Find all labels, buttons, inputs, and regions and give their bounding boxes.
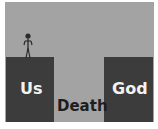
death-label: Death <box>57 98 108 114</box>
god-label: God <box>112 81 148 97</box>
us-label: Us <box>20 81 43 97</box>
stick-figure-icon <box>21 33 35 59</box>
